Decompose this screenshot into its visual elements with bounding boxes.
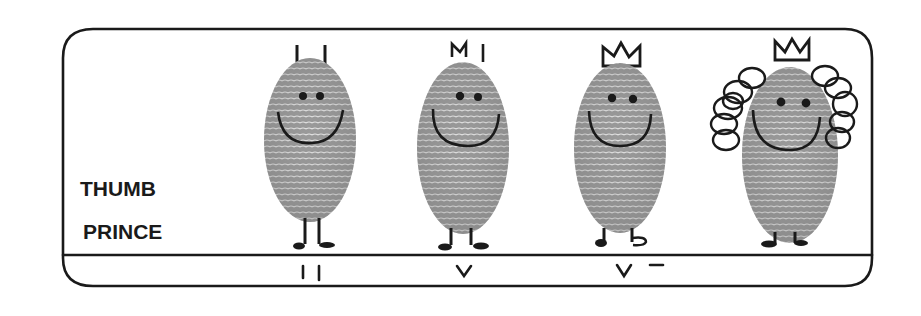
crown-icon [603,43,640,66]
eye-left [299,92,307,100]
stage-markers [303,265,663,280]
title-line-1: THUMB [80,177,156,201]
illustration-canvas [0,0,921,316]
eye-right [316,92,324,100]
title-line-2: PRINCE [83,220,162,244]
figure-stage-3 [574,43,666,247]
figure-stage-1 [264,45,356,250]
foot-right [319,242,335,248]
foot-left [293,243,305,250]
thumb-prince-illustration: THUMB PRINCE [0,0,921,316]
figure-stage-4 [711,39,857,248]
crown-icon [775,39,809,60]
figure-stage-2 [417,43,509,251]
crown-sprout-icon [452,43,466,57]
